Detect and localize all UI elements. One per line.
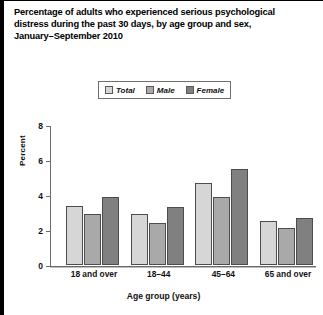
- y-tick-label: 2: [38, 227, 43, 236]
- y-axis-line: [50, 126, 51, 267]
- y-tick-mark: [46, 196, 50, 197]
- bar: [231, 169, 248, 265]
- chart-title: Percentage of adults who experienced ser…: [14, 7, 317, 42]
- bar-group: 18 and over: [66, 125, 122, 265]
- bar-group: 18–44: [131, 125, 187, 265]
- y-tick-label: 6: [38, 157, 43, 166]
- title-line-2: distress during the past 30 days, by age…: [14, 19, 317, 31]
- legend-swatch-male: [146, 86, 154, 94]
- legend-swatch-female: [186, 86, 194, 94]
- y-tick-label: 4: [38, 192, 43, 201]
- title-line-1: Percentage of adults who experienced ser…: [14, 7, 317, 19]
- legend-item-male: Male: [146, 86, 175, 95]
- bar: [260, 221, 277, 265]
- chart-figure: Percentage of adults who experienced ser…: [0, 0, 323, 315]
- bar: [102, 197, 119, 265]
- y-axis-title: Percent: [18, 135, 27, 166]
- bar: [296, 218, 313, 265]
- plot-area: 02468 18 and over18–4445–6465 and over: [50, 126, 316, 266]
- bar: [66, 206, 83, 266]
- baseline-shadow: [50, 267, 316, 268]
- bar: [278, 228, 295, 265]
- bar: [213, 197, 230, 265]
- bar-group: 65 and over: [260, 125, 316, 265]
- bar: [84, 214, 101, 265]
- bar-group: 45–64: [195, 125, 251, 265]
- legend-item-female: Female: [186, 86, 225, 95]
- bar: [131, 214, 148, 265]
- x-axis-title: Age group (years): [4, 291, 323, 301]
- x-tick-label: 18–44: [131, 269, 187, 279]
- legend-swatch-total: [105, 86, 113, 94]
- x-tick-label: 45–64: [195, 269, 251, 279]
- y-tick-mark: [46, 266, 50, 267]
- bar: [167, 207, 184, 265]
- y-tick-label: 0: [38, 262, 43, 271]
- x-tick-label: 65 and over: [260, 269, 316, 279]
- chart-legend: Total Male Female: [98, 81, 231, 99]
- legend-item-total: Total: [105, 86, 135, 95]
- legend-label-male: Male: [157, 86, 175, 95]
- legend-label-female: Female: [197, 86, 225, 95]
- bar: [195, 183, 212, 265]
- legend-label-total: Total: [116, 86, 135, 95]
- title-line-3: January–September 2010: [14, 31, 317, 43]
- y-tick-label: 8: [38, 122, 43, 131]
- y-tick-mark: [46, 126, 50, 127]
- x-tick-label: 18 and over: [66, 269, 122, 279]
- bar: [149, 223, 166, 265]
- y-tick-mark: [46, 161, 50, 162]
- y-tick-mark: [46, 231, 50, 232]
